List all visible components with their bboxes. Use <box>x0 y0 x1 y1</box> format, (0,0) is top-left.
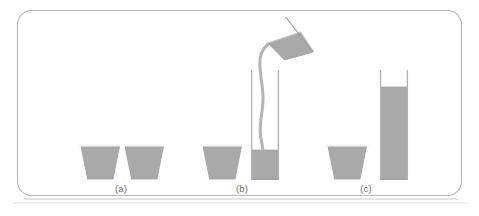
cup-a-left-liquid <box>81 147 121 180</box>
panel-label-b: (b) <box>236 183 248 194</box>
cup-a-right-liquid <box>125 147 165 180</box>
cup-b-left <box>201 146 244 180</box>
cup-c-left-liquid <box>328 147 368 180</box>
figure-container: (a) (b) (c) <box>0 0 479 216</box>
cup-a-left <box>79 146 122 180</box>
cylinder-c-liquid <box>381 87 407 179</box>
panel-label-c: (c) <box>360 183 372 194</box>
cup-a-right <box>123 146 166 180</box>
cup-b-left-liquid <box>203 147 243 180</box>
cup-c-left <box>326 146 369 180</box>
panel-label-a: (a) <box>115 183 127 194</box>
cylinder-b-liquid <box>252 150 278 179</box>
